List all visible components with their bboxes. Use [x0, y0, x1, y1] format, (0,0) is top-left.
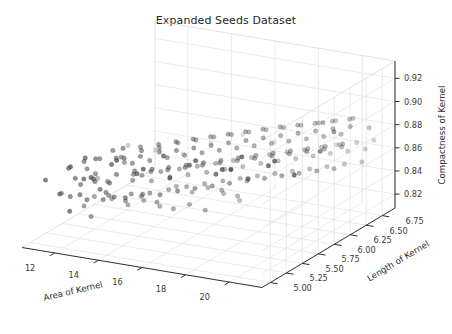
- scatter-point: [235, 194, 239, 198]
- scatter-point: [246, 177, 250, 181]
- x-tick-label: 14: [69, 270, 79, 280]
- scatter-point: [161, 154, 165, 158]
- figure-3d-scatter: Expanded Seeds Dataset 12141618205.005.2…: [0, 0, 452, 334]
- scatter-point: [78, 192, 82, 196]
- scatter-point: [82, 204, 86, 208]
- scatter-point: [104, 190, 108, 194]
- scatter-point: [156, 142, 160, 146]
- scatter-point: [140, 173, 144, 177]
- scatter-point: [57, 192, 61, 196]
- scatter-point: [149, 179, 153, 183]
- scatter-point: [313, 129, 317, 133]
- scatter-point: [271, 151, 275, 155]
- scatter-point: [135, 172, 139, 176]
- scatter-point: [219, 158, 223, 162]
- scatter-point: [278, 133, 282, 137]
- z-tick-label: 0.82: [404, 189, 422, 199]
- scatter-point: [203, 208, 207, 212]
- scatter-point: [109, 162, 113, 166]
- scatter-point: [206, 185, 210, 189]
- y-tick-label: 6.25: [374, 235, 392, 245]
- scatter-point: [217, 148, 221, 152]
- x-tick-label: 12: [25, 263, 35, 273]
- scatter-point: [92, 194, 96, 198]
- scatter-point: [166, 187, 170, 191]
- scatter-point: [126, 203, 130, 207]
- scatter-point: [311, 154, 315, 158]
- scatter-point: [229, 167, 233, 171]
- scatter-point: [155, 200, 159, 204]
- z-tick-label: 0.84: [404, 166, 422, 176]
- scatter-point: [360, 160, 364, 164]
- scatter-point: [158, 193, 162, 197]
- scatter-point: [139, 148, 143, 152]
- scatter-point: [306, 146, 310, 150]
- scatter-point: [220, 167, 224, 171]
- scatter-point: [238, 176, 242, 180]
- y-tick-label: 5.75: [342, 254, 360, 264]
- scatter-point: [126, 143, 130, 147]
- scatter-point: [332, 166, 336, 170]
- scatter-point: [148, 191, 152, 195]
- scatter-point: [354, 140, 358, 144]
- scatter-point: [272, 159, 276, 163]
- scatter-point: [345, 149, 349, 153]
- scatter-point: [68, 165, 72, 169]
- scatter-point: [280, 174, 284, 178]
- x-tick-label: 16: [112, 277, 122, 287]
- scatter-point: [221, 179, 225, 183]
- scatter-point: [367, 126, 371, 130]
- scatter-point: [141, 192, 145, 196]
- scatter-point: [297, 171, 301, 175]
- scatter-points-layer: [43, 116, 376, 219]
- scatter-point: [202, 182, 206, 186]
- scatter-point: [209, 143, 213, 147]
- scatter-point: [157, 150, 161, 154]
- z-axis-title: Compactness of Kernel: [437, 85, 447, 184]
- y-tick-label: 5.50: [326, 264, 344, 274]
- scatter-point: [342, 162, 346, 166]
- scatter-point: [184, 184, 188, 188]
- scatter-point: [261, 136, 265, 140]
- scatter-point: [171, 207, 175, 211]
- scatter-point: [73, 176, 77, 180]
- scatter-point: [262, 176, 266, 180]
- scatter-point: [296, 123, 300, 127]
- scatter-point: [304, 137, 308, 141]
- scatter-point: [292, 173, 296, 177]
- scatter-point: [122, 160, 126, 164]
- scatter-point: [167, 165, 171, 169]
- plot-canvas: [0, 0, 452, 334]
- scatter-point: [89, 175, 93, 179]
- scatter-point: [235, 146, 239, 150]
- scatter-point: [195, 164, 199, 168]
- scatter-point: [93, 157, 97, 161]
- scatter-point: [323, 144, 327, 148]
- scatter-point: [174, 140, 178, 144]
- scatter-point: [348, 117, 352, 121]
- y-tick-label: 6.75: [405, 216, 423, 226]
- scatter-point: [332, 130, 336, 134]
- scatter-point: [43, 178, 47, 182]
- scatter-point: [328, 151, 332, 155]
- scatter-point: [159, 169, 163, 173]
- scatter-point: [93, 171, 97, 175]
- scatter-point: [187, 202, 191, 206]
- scatter-point: [153, 148, 157, 152]
- scatter-point: [321, 120, 325, 124]
- scatter-point: [208, 134, 212, 138]
- scatter-point: [288, 149, 292, 153]
- scatter-point: [254, 153, 258, 157]
- scatter-point: [142, 198, 146, 202]
- scatter-point: [148, 158, 152, 162]
- scatter-point: [98, 187, 102, 191]
- scatter-point: [339, 132, 343, 136]
- scatter-point: [293, 156, 297, 160]
- scatter-point: [85, 167, 89, 171]
- y-tick-label: 5.25: [310, 273, 328, 283]
- scatter-point: [107, 181, 111, 185]
- scatter-point: [112, 195, 116, 199]
- scatter-point: [150, 167, 154, 171]
- scatter-point: [115, 158, 119, 162]
- y-tick-label: 6.00: [358, 245, 376, 255]
